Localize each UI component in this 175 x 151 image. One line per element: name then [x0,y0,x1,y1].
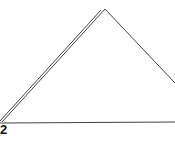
triangle-diagram [0,0,175,151]
vertex-label: 2 [0,122,7,137]
triangle-left-edge-inner [2,9,105,122]
triangle-right-edge [105,9,175,83]
triangle-base [0,122,175,123]
triangle-left-edge-outer [0,10,101,121]
